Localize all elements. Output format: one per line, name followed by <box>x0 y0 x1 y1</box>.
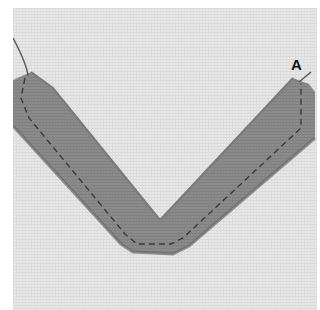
fabric-photo <box>13 8 317 310</box>
point-label-a: A <box>291 56 302 73</box>
fabric-illustration <box>13 8 317 310</box>
